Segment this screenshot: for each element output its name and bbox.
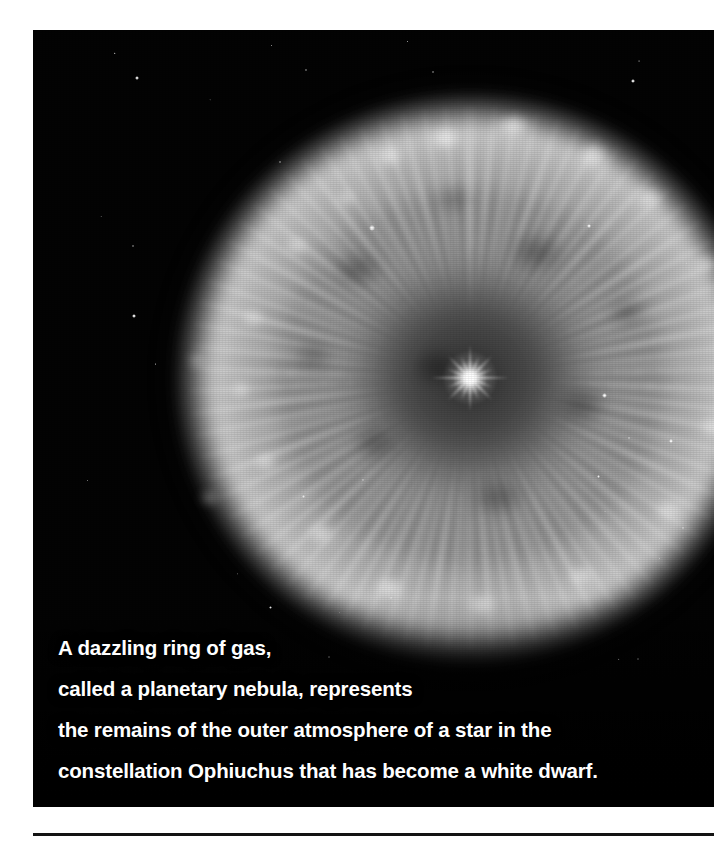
photo-caption: A dazzling ring of gas, called a planeta…: [58, 627, 708, 791]
star-7: [369, 225, 374, 230]
star-4: [631, 79, 635, 83]
star-10: [132, 314, 136, 318]
star-core-glow: [442, 350, 498, 406]
caption-line-1: A dazzling ring of gas,: [58, 627, 708, 668]
magazine-page: A dazzling ring of gas, called a planeta…: [0, 0, 722, 841]
caption-line-2: called a planetary nebula, represents: [58, 668, 708, 709]
star-18: [269, 606, 272, 609]
star-8: [587, 224, 591, 228]
star-11: [602, 393, 607, 398]
caption-line-4: constellation Ophiuchus that has become …: [58, 750, 708, 791]
star-12: [597, 475, 600, 478]
nebula-photo: A dazzling ring of gas, called a planeta…: [33, 30, 714, 807]
star-1: [135, 76, 138, 79]
caption-line-3: the remains of the outer atmosphere of a…: [58, 709, 708, 750]
star-15: [302, 495, 305, 498]
star-13: [669, 439, 672, 442]
page-divider-rule: [33, 833, 714, 836]
